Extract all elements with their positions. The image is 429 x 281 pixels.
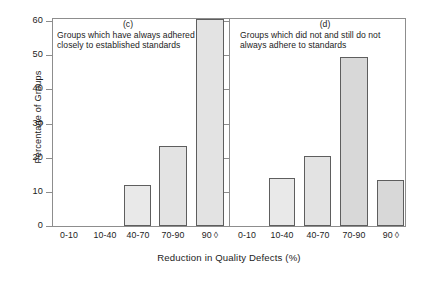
panel-c-tag: (c): [108, 19, 148, 29]
y-tick-label: 60: [33, 15, 43, 25]
bar-d-10-40: [269, 178, 295, 226]
bar-d-90-plus: [377, 180, 404, 226]
bar-chart-figure: Percentage of Groups 60 50 40 30 20 10 0…: [0, 0, 429, 281]
y-tick-label: 50: [33, 49, 43, 59]
x-tick-label: 40-70: [127, 230, 150, 240]
lozenge-icon: ◊: [395, 230, 399, 240]
x-tick-label: 90: [383, 230, 393, 240]
x-tick-label: 10-40: [271, 230, 294, 240]
x-axis-title: Reduction in Quality Defects (%): [52, 252, 406, 263]
y-tick-mark: [46, 158, 52, 159]
bar-c-90-plus: [196, 19, 224, 226]
y-tick-mark: [46, 226, 52, 227]
panel-d-note-line2: always adhere to standards: [240, 40, 380, 50]
y-tick-mark: [46, 124, 52, 125]
panel-c-note-line2: closely to established standards: [57, 40, 195, 50]
bar-d-70-90: [340, 57, 368, 226]
y-tick-mark: [46, 21, 52, 22]
panel-c-note: Groups which have always adhered closely…: [57, 30, 195, 51]
x-tick-d-90-plus: 90◊: [369, 230, 413, 240]
x-axis-baseline: [52, 226, 406, 227]
y-tick-label: 30: [33, 118, 43, 128]
bar-c-40-70: [124, 185, 151, 226]
x-tick-label: 0-10: [238, 230, 256, 240]
y-tick-label: 20: [33, 152, 43, 162]
panel-d-tag: (d): [305, 19, 345, 29]
x-tick-label: 10-40: [94, 230, 117, 240]
x-tick-label: 70-90: [343, 230, 366, 240]
panel-d-note-line1: Groups which did not and still do not: [240, 30, 380, 40]
x-tick-label: 90: [202, 230, 212, 240]
x-tick-label: 40-70: [307, 230, 330, 240]
x-tick-label: 0-10: [60, 230, 78, 240]
panel-d-note: Groups which did not and still do not al…: [240, 30, 380, 51]
y-tick-label: 0: [38, 220, 43, 230]
bar-d-40-70: [304, 156, 331, 226]
lozenge-icon: ◊: [214, 230, 218, 240]
panel-c-note-line1: Groups which have always adhered: [57, 30, 195, 40]
y-tick-label: 40: [33, 83, 43, 93]
bar-c-70-90: [159, 146, 187, 226]
y-tick-mark: [46, 89, 52, 90]
y-tick-mark: [46, 55, 52, 56]
x-tick-label: 70-90: [162, 230, 185, 240]
panel-divider: [229, 18, 230, 226]
y-tick-label: 10: [33, 186, 43, 196]
y-tick-mark: [46, 192, 52, 193]
